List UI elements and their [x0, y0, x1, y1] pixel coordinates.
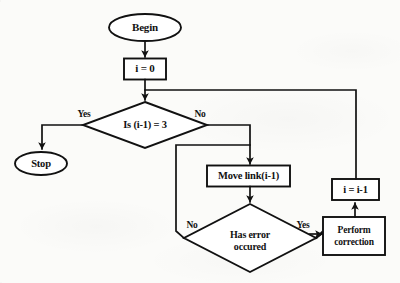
move-link-box-label: Move link(i-1) — [207, 166, 290, 186]
edge-label-check-no: No — [190, 110, 210, 120]
edge-label-check-yes: Yes — [72, 110, 96, 120]
perform-correction-box-label-line2: correction — [323, 236, 385, 248]
decrement-box-label: i = i-1 — [332, 180, 379, 200]
edge-label-haserror-yes: Yes — [291, 221, 315, 231]
check-index-diamond-label: Is (i-1) = 3 — [100, 116, 190, 134]
has-error-diamond-label-line2: occured — [210, 241, 290, 253]
perform-correction-box-label-line1: Perform — [323, 224, 385, 236]
begin-oval-label: Begin — [109, 18, 181, 37]
stop-oval-label: Stop — [16, 154, 66, 173]
flowchart-canvas: Begin i = 0 Is (i-1) = 3 Stop Move link(… — [0, 0, 400, 283]
edge-check-yes-to-stop — [42, 125, 83, 149]
has-error-diamond-label-line1: Has error — [210, 229, 290, 241]
init-box-label: i = 0 — [124, 59, 166, 79]
edge-label-haserror-no: No — [182, 221, 202, 231]
